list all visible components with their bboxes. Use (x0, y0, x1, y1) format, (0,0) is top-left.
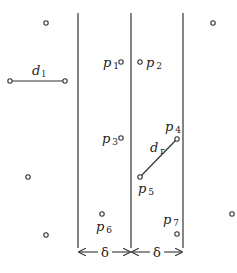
delta-label: δ (101, 245, 109, 260)
p4-point-icon (175, 137, 179, 141)
points: p1p2p3p4p5p6p7 (8, 21, 234, 237)
strip-partition-diagram: dldr δδ p1p2p3p4p5p6p7 (0, 0, 237, 273)
p4-label: p4 (165, 119, 181, 135)
left-delta-marker: δ (79, 245, 130, 260)
delta-label: δ (153, 245, 161, 260)
p1-label: p1 (103, 55, 119, 71)
dr-segment (140, 139, 177, 177)
distance-segments: dldr (10, 63, 177, 177)
p3-label: p3 (102, 131, 118, 147)
p1-point-icon (119, 60, 123, 64)
top-right-point-point-icon (211, 21, 215, 25)
p2-label: p2 (146, 55, 162, 71)
p2-point-icon (138, 60, 142, 64)
dl-endpoint-left-point-icon (8, 79, 12, 83)
bottom-right-point-point-icon (230, 212, 234, 216)
bottom-left-point-point-icon (44, 233, 48, 237)
top-left-point-point-icon (44, 21, 48, 25)
p7-point-icon (175, 232, 179, 236)
p6-point-icon (100, 212, 104, 216)
dl-endpoint-right-point-icon (63, 79, 67, 83)
p5-label: p5 (138, 181, 154, 197)
p6-label: p6 (96, 219, 112, 235)
dl-segment-label: dl (32, 63, 45, 79)
p3-point-icon (119, 136, 123, 140)
dr-segment-label: dr (150, 140, 165, 156)
p5-point-icon (138, 175, 142, 179)
right-delta-marker: δ (132, 245, 182, 260)
mid-left-point-point-icon (26, 175, 30, 179)
p7-label: p7 (163, 212, 179, 228)
